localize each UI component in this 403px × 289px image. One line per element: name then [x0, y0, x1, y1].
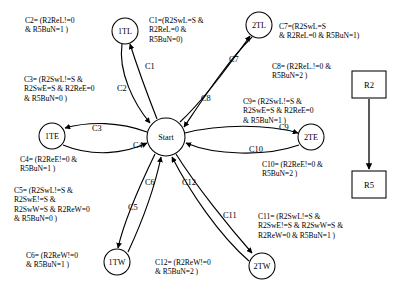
condition-c7: C7=(R2SwL=S & R2ReL=0 & R5BuN=1) — [279, 22, 359, 41]
edge-label-c1: C1 — [145, 62, 155, 71]
edge-start-to-2tw-c11 — [176, 154, 252, 253]
condition-c12: C12= (R2ReW!=0 & R5BuN=2 ) — [155, 258, 211, 277]
node-2tl[interactable]: 2TL — [246, 12, 272, 38]
node-1te-label: 1TE — [45, 132, 59, 141]
node-2tl-label: 2TL — [252, 21, 266, 30]
condition-c9: C9= (R2SwL!=S & R2SwE=S & R2ReE=0 & R5Bu… — [243, 97, 314, 125]
node-r5[interactable]: R5 — [352, 171, 386, 198]
edge-2tl-to-start-c8 — [184, 37, 252, 127]
edge-label-c5: C5 — [128, 203, 138, 212]
node-start[interactable]: Start — [147, 118, 185, 156]
condition-c10: C10= (R2ReE!=0 & R5BuN=2 ) — [262, 160, 323, 179]
edge-label-c3: C3 — [92, 124, 102, 133]
edge-label-c10: C10 — [249, 145, 263, 154]
condition-c2: C2= (R2ReL!=0 & R5BuN=1 ) — [25, 16, 74, 35]
edge-2tw-to-start-c12 — [172, 157, 249, 261]
condition-c3: C3= (R2SwL!=S & R2SwE=S & R2ReE=0 & R5Bu… — [24, 75, 95, 103]
node-r2-label: R2 — [364, 80, 374, 90]
condition-c1: C1=(R2SwL=S & R2ReL=0 & R5BuN=0) — [149, 16, 204, 44]
edge-label-c7: C7 — [229, 55, 239, 64]
state-diagram-figure: Start 1TL 2TL 1TE 2TE 1TW 2TW R2 — [0, 0, 403, 289]
condition-c8: C8= (R2ReL.!=0 & R5BuN=2 ) — [272, 62, 331, 81]
node-2tw-label: 2TW — [254, 262, 271, 271]
node-2te[interactable]: 2TE — [298, 124, 324, 150]
edge-label-c8: C8 — [201, 94, 211, 103]
node-r5-label: R5 — [364, 180, 374, 190]
edge-start-to-2tl-c7 — [180, 36, 250, 122]
node-2te-label: 2TE — [304, 133, 318, 142]
node-1te[interactable]: 1TE — [39, 123, 65, 149]
edge-label-c11: C11 — [223, 211, 237, 220]
edge-label-c12: C12 — [182, 178, 196, 187]
condition-c5: C5= (R2SwL!=S & R2SwE!=S & R2SwW=S & R2R… — [14, 186, 90, 224]
edge-2te-to-start-c10 — [186, 143, 299, 153]
node-start-label: Start — [158, 133, 174, 142]
node-1tl-label: 1TL — [118, 27, 132, 36]
edge-start-to-1te-c3 — [65, 123, 147, 132]
edge-label-c6: C6 — [145, 178, 155, 187]
node-r2[interactable]: R2 — [352, 71, 386, 98]
edge-label-c4: C4 — [133, 141, 144, 150]
condition-c4: C4= (R2ReE!=0 & R5BuN=1 ) — [20, 155, 77, 174]
node-2tw[interactable]: 2TW — [249, 253, 275, 279]
edge-start-to-1tl-c1 — [130, 44, 157, 119]
condition-c6: C6= (R2ReW!=0 & R5BuN=1 ) — [26, 251, 78, 270]
edge-label-c2: C2 — [117, 84, 127, 93]
node-1tl[interactable]: 1TL — [112, 18, 138, 44]
node-1tw[interactable]: 1TW — [104, 249, 130, 275]
node-1tw-label: 1TW — [109, 258, 126, 267]
condition-c11: C11= (R2SwL!=S & R2SwE!=S & R2SwW=S & R2… — [258, 212, 343, 240]
